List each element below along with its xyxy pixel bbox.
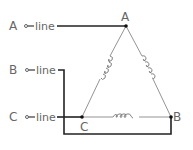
terminal-b-letter: B xyxy=(9,63,17,77)
terminal-a-circle-icon xyxy=(25,25,28,28)
coil-c-b-icon xyxy=(113,114,133,118)
line-c-terminal: C line xyxy=(9,110,82,124)
node-b-label: B xyxy=(173,110,181,124)
winding-c-b xyxy=(82,114,171,118)
node-a-dot-icon xyxy=(124,24,128,28)
delta-winding-diagram: A line B line C line xyxy=(0,0,193,150)
coil-a-b-icon xyxy=(142,56,155,79)
line-a-terminal: A line xyxy=(9,19,126,33)
terminal-c-circle-icon xyxy=(26,116,29,119)
winding-a-c xyxy=(82,26,126,117)
winding-a-b-lead-top xyxy=(126,26,142,56)
node-a: A xyxy=(121,10,130,28)
winding-a-b-lead-bottom xyxy=(153,79,171,117)
coil-a-c-icon xyxy=(101,56,113,80)
line-a-label: line xyxy=(35,20,55,33)
terminal-b-circle-icon xyxy=(26,69,29,72)
line-b-wire xyxy=(58,70,171,134)
terminal-c-letter: C xyxy=(9,110,17,124)
line-b-label: line xyxy=(36,64,56,77)
winding-a-c-lead-top xyxy=(110,26,126,56)
terminal-a-letter: A xyxy=(9,19,18,33)
node-c-label: C xyxy=(80,120,88,134)
line-c-label: line xyxy=(36,111,56,124)
line-b-terminal: B line xyxy=(9,63,171,134)
winding-a-b xyxy=(126,26,171,117)
winding-a-c-lead-bottom xyxy=(82,79,100,117)
node-c-dot-icon xyxy=(80,115,84,119)
node-c: C xyxy=(80,115,88,134)
node-a-label: A xyxy=(121,10,130,24)
